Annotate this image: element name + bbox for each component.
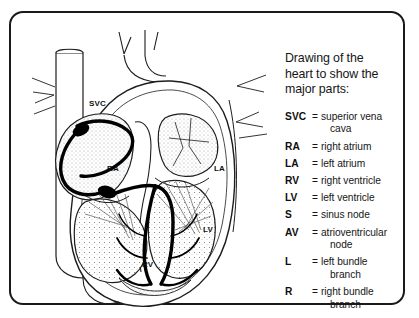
- legend-equals: =: [312, 209, 321, 222]
- legend-definition: left ventricle: [321, 192, 413, 205]
- legend-abbr: L: [285, 256, 312, 269]
- legend-equals: =: [312, 175, 321, 188]
- diagram-label-lv: LV: [203, 226, 213, 234]
- legend-abbr: RA: [285, 141, 312, 154]
- legend-definition-line-1: right bundle: [321, 286, 374, 297]
- legend-definition: left atrium: [321, 158, 413, 171]
- legend-definition: right bundle branch: [321, 286, 413, 311]
- legend-title-line-2: heart to show the: [285, 67, 413, 83]
- heart-cross-section-drawing: [23, 26, 271, 318]
- legend-abbr: RV: [285, 175, 312, 188]
- legend-item-la: LA = left atrium: [285, 158, 413, 171]
- legend-definition-line-1: atrioventricular: [321, 227, 387, 238]
- diagram-label-svc: SVC: [89, 100, 106, 108]
- brachiocephalic-branch: [119, 32, 131, 54]
- legend-equals: =: [312, 111, 321, 124]
- illustration-frame: SVC RA LA RV LV Drawing of the heart to …: [9, 11, 405, 305]
- legend-item-rv: RV = right ventricle: [285, 175, 413, 188]
- legend-definition: sinus node: [321, 209, 413, 222]
- legend-equals: =: [312, 256, 321, 269]
- legend-definition-line-2: branch: [321, 269, 413, 282]
- aorta-inner: [145, 56, 166, 76]
- legend-item-svc: SVC = superior vena cava: [285, 111, 413, 136]
- legend-abbr: LV: [285, 192, 312, 205]
- subclavian-branch: [154, 32, 158, 50]
- diagram-label-la: LA: [214, 165, 225, 173]
- legend-title: Drawing of the heart to show the major p…: [285, 51, 413, 98]
- legend-abbr: LA: [285, 158, 312, 171]
- legend-list: SVC = superior vena cava RA = right atri…: [285, 111, 413, 311]
- legend-definition-line-1: left bundle: [321, 256, 367, 267]
- legend-abbr: S: [285, 209, 312, 222]
- heart-diagram: SVC RA LA RV LV: [23, 26, 271, 318]
- diagram-label-ra: RA: [107, 165, 119, 173]
- legend-definition: atrioventricular node: [321, 227, 413, 252]
- legend-title-line-3: major parts:: [285, 82, 413, 98]
- legend-item-av: AV = atrioventricular node: [285, 227, 413, 252]
- legend-equals: =: [312, 192, 321, 205]
- legend-definition-line-2: branch: [321, 299, 413, 312]
- legend-title-line-1: Drawing of the: [285, 51, 413, 67]
- legend-definition-line-2: cava: [321, 123, 413, 136]
- legend-definition-line-2: node: [321, 239, 413, 252]
- legend-definition: left bundle branch: [321, 256, 413, 281]
- legend-definition-line-1: superior vena: [321, 111, 382, 122]
- azygos-vein-branches: [32, 78, 55, 114]
- legend-definition: right ventricle: [321, 175, 413, 188]
- legend-equals: =: [312, 286, 321, 299]
- legend-equals: =: [312, 227, 321, 240]
- legend-definition: right atrium: [321, 141, 413, 154]
- legend-item-lv: LV = left ventricle: [285, 192, 413, 205]
- legend-item-l: L = left bundle branch: [285, 256, 413, 281]
- legend-item-r: R = right bundle branch: [285, 286, 413, 311]
- legend-item-s: S = sinus node: [285, 209, 413, 222]
- pulmonary-veins: [236, 75, 267, 138]
- legend-abbr: SVC: [285, 111, 312, 124]
- legend-definition: superior vena cava: [321, 111, 413, 136]
- legend-item-ra: RA = right atrium: [285, 141, 413, 154]
- legend-equals: =: [312, 158, 321, 171]
- legend-abbr: AV: [285, 227, 312, 240]
- legend-abbr: R: [285, 286, 312, 299]
- diagram-label-rv: RV: [142, 261, 153, 269]
- legend-equals: =: [312, 141, 321, 154]
- legend-panel: Drawing of the heart to show the major p…: [285, 51, 413, 316]
